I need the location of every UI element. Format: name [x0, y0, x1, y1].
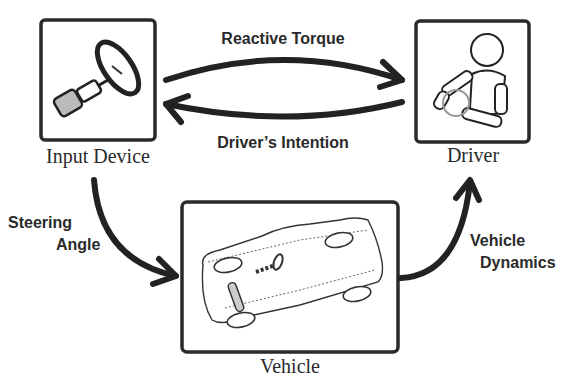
edge-reactive-torque: Reactive Torque: [166, 30, 402, 87]
vehicle-dynamics-label-line2: Dynamics: [480, 254, 556, 271]
steering-label-line2: Angle: [56, 236, 101, 253]
steering-label-line1: Steering: [8, 214, 72, 231]
edge-vehicle-dynamics: Vehicle Dynamics: [401, 180, 556, 278]
reactive-torque-label: Reactive Torque: [221, 30, 344, 47]
driver-label: Driver: [447, 144, 500, 166]
edge-drivers-intention: Driver’s Intention: [166, 96, 402, 151]
vehicle-label: Vehicle: [260, 355, 320, 377]
vehicle-dynamics-label-line1: Vehicle: [470, 232, 525, 249]
diagram-canvas: Input Device Driver Veh: [0, 0, 583, 388]
node-vehicle: Vehicle: [182, 202, 398, 377]
drivers-intention-label: Driver’s Intention: [217, 134, 349, 151]
edge-steering-angle: Steering Angle: [8, 180, 176, 284]
node-input-device: Input Device: [41, 20, 155, 168]
vehicle-box: [182, 202, 398, 352]
arrow-drivers-intention: [166, 102, 402, 117]
input-device-label: Input Device: [46, 145, 150, 168]
arrow-reactive-torque: [166, 60, 402, 80]
node-driver: Driver: [416, 21, 529, 166]
